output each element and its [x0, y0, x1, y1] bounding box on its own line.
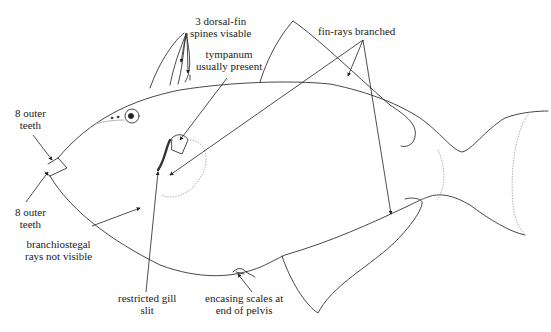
label-tympanum: tympanum usually present	[196, 48, 262, 72]
leader-branchiostegal	[92, 208, 140, 226]
label-fin-rays: fin-rays branched	[318, 25, 395, 37]
leader-gill-slit	[146, 172, 158, 292]
dorsal-spines	[150, 33, 190, 88]
pupil	[128, 113, 133, 118]
leader-tympanum	[180, 78, 227, 140]
label-pelvis-scales: encasing scales at end of pelvis	[205, 292, 283, 316]
caudal-fin-edge	[512, 112, 530, 235]
leader-teeth-upper	[33, 135, 52, 160]
leader-fin-rays-2	[363, 40, 391, 214]
operculum	[172, 135, 188, 154]
leader-dorsal-spine-2	[187, 33, 188, 73]
label-branchiostegal: branchiostegal rays not visible	[25, 238, 92, 262]
label-gill-slit: restricted gill slit	[118, 292, 176, 316]
mouth	[45, 158, 67, 176]
fish-diagram: 3 dorsal-fin spines visable tympanum usu…	[0, 0, 551, 332]
leader-teeth-lower	[26, 172, 48, 202]
label-dorsal-spines: 3 dorsal-fin spines visable	[190, 15, 251, 39]
label-outer-teeth-upper: 8 outer teeth	[15, 107, 46, 131]
anal-fin	[282, 198, 422, 313]
caudal-peduncle-line	[437, 150, 444, 200]
fish-illustration	[0, 0, 551, 332]
gill-slit	[158, 140, 170, 170]
label-outer-teeth-lower: 8 outer teeth	[15, 206, 46, 230]
leader-dorsal-spine-1	[181, 33, 186, 62]
leader-pelvis	[238, 274, 252, 292]
body-ventral-outline	[50, 176, 525, 276]
body-dorsal-outline	[58, 82, 548, 158]
soft-dorsal-fin	[260, 21, 415, 147]
